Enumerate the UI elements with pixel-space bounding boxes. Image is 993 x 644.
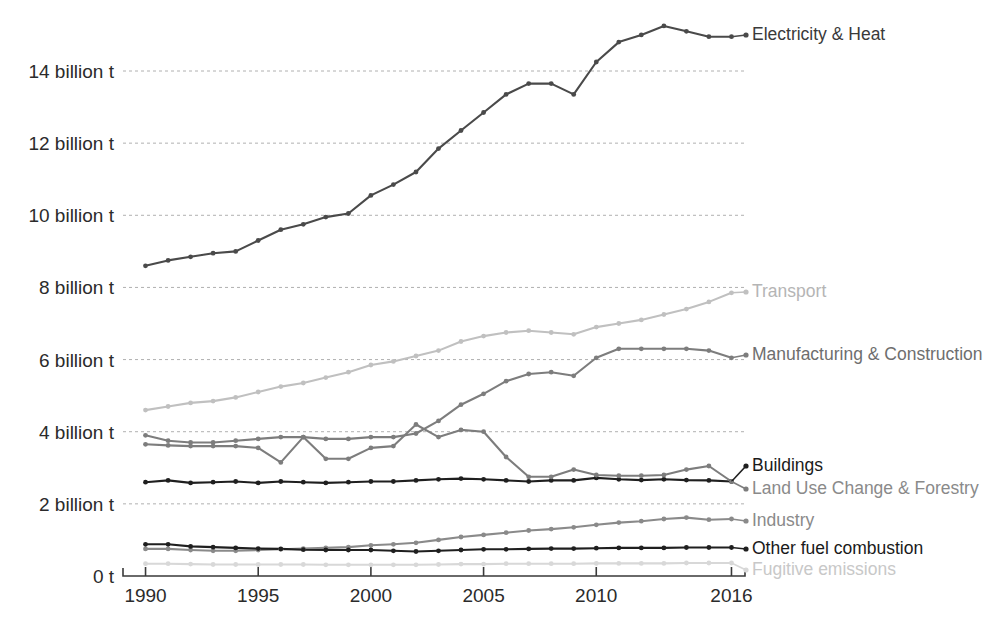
data-point-electricity-heat-2012 [639, 33, 644, 38]
series-label-land-use-change-forestry: Land Use Change & Forestry [752, 478, 979, 498]
data-point-fugitive-emissions-2007 [526, 561, 531, 566]
data-point-other-fuel-combustion-2006 [504, 547, 509, 552]
data-point-other-fuel-combustion-1992 [188, 544, 193, 549]
data-point-manufacturing-construction-2010 [594, 355, 599, 360]
data-point-fugitive-emissions-2000 [369, 562, 374, 567]
data-point-land-use-change-forestry-2004 [459, 428, 464, 433]
data-point-electricity-heat-2007 [526, 81, 531, 86]
x-tick-label-2005: 2005 [462, 585, 504, 606]
data-point-fugitive-emissions-2010 [594, 561, 599, 566]
data-point-manufacturing-construction-2002 [414, 431, 419, 436]
data-point-fugitive-emissions-1992 [188, 562, 193, 567]
data-point-electricity-heat-2014 [684, 29, 689, 34]
data-point-industry-2005 [481, 533, 486, 538]
emissions-by-sector-line-chart: 0 t2 billion t4 billion t6 billion t8 bi… [0, 0, 993, 644]
data-point-other-fuel-combustion-2001 [391, 548, 396, 553]
data-point-land-use-change-forestry-2015 [707, 464, 712, 469]
data-point-buildings-2013 [662, 477, 667, 482]
data-point-transport-2011 [616, 321, 621, 326]
y-axis-tick-labels: 0 t2 billion t4 billion t6 billion t8 bi… [28, 61, 114, 587]
data-point-land-use-change-forestry-2001 [391, 444, 396, 449]
data-point-transport-1994 [233, 395, 238, 400]
data-point-electricity-heat-2004 [459, 128, 464, 133]
data-point-other-fuel-combustion-1990 [143, 542, 148, 547]
data-point-fugitive-emissions-2009 [571, 561, 576, 566]
data-point-land-use-change-forestry-1999 [346, 456, 351, 461]
series-label-buildings: Buildings [752, 455, 823, 475]
data-point-buildings-1997 [301, 480, 306, 485]
data-point-other-fuel-combustion-1991 [166, 542, 171, 547]
data-point-transport-1990 [143, 408, 148, 413]
data-point-land-use-change-forestry-2012 [639, 473, 644, 478]
series-line-manufacturing-construction [146, 349, 732, 443]
data-point-manufacturing-construction-1995 [256, 437, 261, 442]
data-point-fugitive-emissions-2006 [504, 561, 509, 566]
x-axis-tick-labels: 199019952000200520102016 [124, 585, 752, 606]
data-point-electricity-heat-1996 [278, 227, 283, 232]
data-point-land-use-change-forestry-2003 [436, 435, 441, 440]
data-point-fugitive-emissions-2014 [684, 561, 689, 566]
data-point-industry-2013 [662, 517, 667, 522]
data-point-other-fuel-combustion-2002 [414, 549, 419, 554]
data-point-fugitive-emissions-1995 [256, 562, 261, 567]
series-label-other-fuel-combustion: Other fuel combustion [752, 538, 923, 558]
data-point-other-fuel-combustion-2003 [436, 548, 441, 553]
series-label-industry: Industry [752, 510, 814, 530]
x-tick-label-1995: 1995 [237, 585, 279, 606]
series-markers-group [143, 24, 734, 568]
data-point-electricity-heat-2010 [594, 60, 599, 65]
x-tick-label-2016: 2016 [710, 585, 752, 606]
series-label-electricity-heat: Electricity & Heat [752, 24, 885, 44]
leader-endpoint-buildings [743, 463, 748, 468]
y-tick-label-0: 0 t [93, 566, 115, 587]
data-point-fugitive-emissions-2005 [481, 562, 486, 567]
data-point-land-use-change-forestry-2007 [526, 474, 531, 479]
data-point-manufacturing-construction-1994 [233, 438, 238, 443]
data-point-land-use-change-forestry-2013 [662, 473, 667, 478]
data-point-buildings-2007 [526, 479, 531, 484]
data-point-fugitive-emissions-2012 [639, 561, 644, 566]
data-point-electricity-heat-1999 [346, 211, 351, 216]
data-point-other-fuel-combustion-2008 [549, 546, 554, 551]
data-point-land-use-change-forestry-2010 [594, 473, 599, 478]
data-point-land-use-change-forestry-2008 [549, 474, 554, 479]
data-point-electricity-heat-1997 [301, 222, 306, 227]
data-point-land-use-change-forestry-2000 [369, 446, 374, 451]
data-point-transport-2001 [391, 359, 396, 364]
data-point-electricity-heat-2001 [391, 182, 396, 187]
data-point-manufacturing-construction-1990 [143, 433, 148, 438]
data-point-manufacturing-construction-2015 [707, 348, 712, 353]
data-point-manufacturing-construction-2007 [526, 372, 531, 377]
data-point-industry-2003 [436, 538, 441, 543]
data-point-other-fuel-combustion-2005 [481, 547, 486, 552]
x-tick-label-2010: 2010 [575, 585, 617, 606]
data-point-fugitive-emissions-2001 [391, 562, 396, 567]
data-point-manufacturing-construction-1991 [166, 438, 171, 443]
data-point-transport-2010 [594, 325, 599, 330]
data-point-transport-2003 [436, 348, 441, 353]
data-point-other-fuel-combustion-1995 [256, 546, 261, 551]
data-point-electricity-heat-2006 [504, 92, 509, 97]
data-point-land-use-change-forestry-1990 [143, 442, 148, 447]
data-point-transport-1992 [188, 401, 193, 406]
series-leader-lines [732, 32, 749, 572]
data-point-other-fuel-combustion-2015 [707, 545, 712, 550]
data-point-transport-1999 [346, 370, 351, 375]
data-point-manufacturing-construction-2013 [662, 346, 667, 351]
data-point-buildings-1994 [233, 479, 238, 484]
data-point-electricity-heat-2005 [481, 110, 486, 115]
data-point-electricity-heat-1990 [143, 263, 148, 268]
data-point-land-use-change-forestry-1997 [301, 435, 306, 440]
data-point-buildings-1995 [256, 481, 261, 486]
data-point-buildings-1998 [323, 481, 328, 486]
series-line-land-use-change-forestry [146, 425, 732, 482]
data-point-fugitive-emissions-1999 [346, 562, 351, 567]
data-point-buildings-2005 [481, 477, 486, 482]
data-point-buildings-1990 [143, 480, 148, 485]
data-point-electricity-heat-2011 [616, 40, 621, 45]
data-point-buildings-2001 [391, 479, 396, 484]
data-point-other-fuel-combustion-2014 [684, 545, 689, 550]
data-point-fugitive-emissions-1997 [301, 562, 306, 567]
x-tick-label-2000: 2000 [350, 585, 392, 606]
leader-endpoint-transport [743, 289, 748, 294]
